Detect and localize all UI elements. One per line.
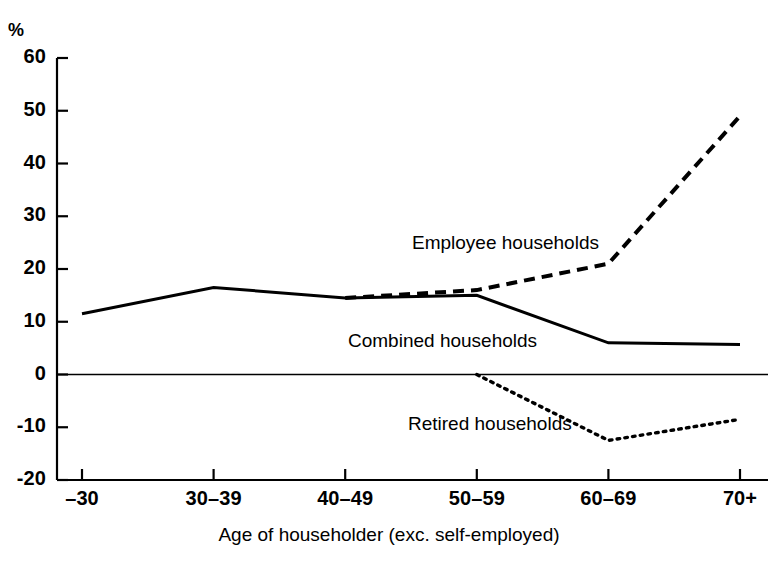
y-tick-label-50: 50 (0, 98, 46, 121)
chart-plot-area (0, 0, 778, 563)
y-tick-label-10: 10 (0, 309, 46, 332)
y-tick-label-0: 0 (0, 362, 46, 385)
x-tick-label-70plus: 70+ (680, 487, 778, 510)
x-tick-label-under30: –30 (22, 487, 142, 510)
y-tick-label-40: 40 (0, 151, 46, 174)
series-label-combined-households: Combined households (348, 330, 537, 352)
x-tick-label-60-69: 60–69 (548, 487, 668, 510)
y-tick-label-60: 60 (0, 45, 46, 68)
y-tick-label-minus10: -10 (0, 414, 46, 437)
series-line-employee-households (345, 116, 740, 298)
y-axis-unit-label: % (8, 20, 24, 41)
series-label-employee-households: Employee households (412, 232, 599, 254)
x-axis-title: Age of householder (exc. self-employed) (0, 524, 778, 546)
chart-container: % 60 50 40 30 20 10 0 -10 -20 –30 30–39 … (0, 0, 778, 563)
y-tick-label-30: 30 (0, 203, 46, 226)
x-tick-label-40-49: 40–49 (285, 487, 405, 510)
y-tick-label-20: 20 (0, 256, 46, 279)
x-tick-label-30-39: 30–39 (154, 487, 274, 510)
x-tick-label-50-59: 50–59 (417, 487, 537, 510)
series-label-retired-households: Retired households (408, 413, 572, 435)
series-layer (82, 116, 740, 440)
